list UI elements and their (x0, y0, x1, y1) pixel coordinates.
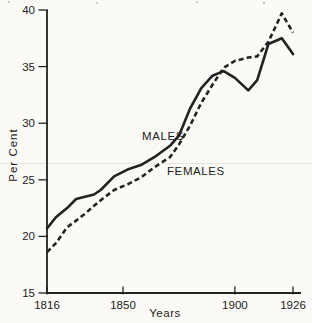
line-chart: 1520253035401816185019001926MALESFEMALES (0, 0, 312, 323)
y-tick-label: 30 (22, 117, 35, 129)
series-label-females: FEMALES (167, 165, 225, 177)
x-tick-label: 1850 (110, 299, 136, 311)
y-axis-title: Per Cent (7, 128, 19, 181)
y-tick-label: 25 (22, 174, 35, 186)
y-tick-label: 40 (22, 4, 35, 16)
series-label-males: MALES (142, 130, 184, 142)
x-axis-title: Years (149, 307, 181, 319)
y-tick-label: 20 (22, 230, 35, 242)
x-tick-label: 1900 (222, 299, 248, 311)
x-tick-label: 1816 (34, 299, 60, 311)
scanned-chart-figure: 1520253035401816185019001926MALESFEMALES… (0, 0, 312, 323)
y-tick-label: 35 (22, 61, 35, 73)
x-tick-label: 1926 (280, 299, 306, 311)
y-tick-label: 15 (22, 287, 35, 299)
